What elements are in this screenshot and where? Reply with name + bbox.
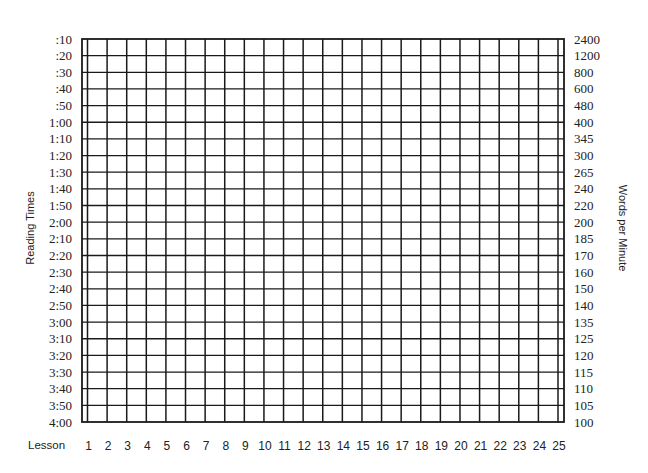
reading-time-tick: 3:00 [49, 315, 72, 330]
words-per-minute-tick: 100 [574, 415, 594, 430]
chart-grid: :10:20:30:40:501:001:101:201:301:401:502… [0, 0, 648, 473]
right-axis-ticks: 2400120080060048040034530026524022020018… [574, 32, 600, 430]
lesson-tick: 12 [297, 439, 311, 453]
reading-time-tick: 1:20 [49, 148, 72, 163]
reading-time-tick: 2:20 [49, 248, 72, 263]
words-per-minute-tick: 300 [574, 148, 594, 163]
words-per-minute-tick: 800 [574, 65, 594, 80]
reading-time-tick: :10 [55, 32, 72, 47]
words-per-minute-tick: 400 [574, 115, 594, 130]
words-per-minute-tick: 140 [574, 298, 594, 313]
lesson-tick: 23 [513, 439, 527, 453]
reading-time-tick: 2:10 [49, 231, 72, 246]
words-per-minute-tick: 240 [574, 181, 594, 196]
lesson-tick: 8 [222, 439, 229, 453]
lesson-tick: 4 [144, 439, 151, 453]
reading-time-tick: 2:30 [49, 265, 72, 280]
lesson-tick: 1 [85, 439, 92, 453]
reading-time-tick: 1:50 [49, 198, 72, 213]
lesson-tick: 10 [258, 439, 272, 453]
lesson-tick: 17 [395, 439, 409, 453]
words-per-minute-tick: 160 [574, 265, 594, 280]
words-per-minute-tick: 480 [574, 98, 594, 113]
reading-time-tick: 4:00 [49, 415, 72, 430]
reading-time-tick: 3:10 [49, 331, 72, 346]
words-per-minute-tick: 115 [574, 365, 593, 380]
lesson-axis-ticks: 1234567891011121314151617181920212223242… [85, 439, 566, 453]
reading-time-tick: 3:20 [49, 348, 72, 363]
lesson-tick: 21 [474, 439, 488, 453]
reading-time-tick: 3:50 [49, 398, 72, 413]
lesson-tick: 11 [278, 439, 291, 453]
words-per-minute-tick: 265 [574, 165, 594, 180]
lesson-tick: 7 [203, 439, 210, 453]
lesson-tick: 13 [317, 439, 331, 453]
reading-time-tick: 3:30 [49, 365, 72, 380]
right-axis-title: Words per Minute [617, 185, 629, 272]
reading-time-tick: 2:50 [49, 298, 72, 313]
words-per-minute-tick: 170 [574, 248, 594, 263]
reading-time-tick: 3:40 [49, 381, 72, 396]
reading-time-tick: 2:00 [49, 215, 72, 230]
words-per-minute-tick: 105 [574, 398, 594, 413]
reading-time-tick: 2:40 [49, 281, 72, 296]
words-per-minute-tick: 120 [574, 348, 594, 363]
words-per-minute-tick: 220 [574, 198, 594, 213]
reading-time-tick: 1:30 [49, 165, 72, 180]
lesson-tick: 5 [164, 439, 171, 453]
words-per-minute-tick: 110 [574, 381, 593, 396]
lesson-tick: 22 [494, 439, 508, 453]
reading-time-tick: 1:40 [49, 181, 72, 196]
reading-time-tick: :30 [55, 65, 72, 80]
words-per-minute-tick: 135 [574, 315, 594, 330]
lesson-tick: 24 [533, 439, 547, 453]
grid-lines [82, 39, 564, 422]
lesson-tick: 25 [552, 439, 566, 453]
words-per-minute-tick: 185 [574, 231, 594, 246]
lesson-tick: 3 [124, 439, 131, 453]
reading-time-tick: :40 [55, 81, 72, 96]
reading-time-tick: :50 [55, 98, 72, 113]
words-per-minute-tick: 150 [574, 281, 594, 296]
lesson-tick: 15 [356, 439, 370, 453]
reading-time-tick: :20 [55, 48, 72, 63]
words-per-minute-tick: 125 [574, 331, 594, 346]
words-per-minute-tick: 345 [574, 131, 594, 146]
reading-time-tick: 1:10 [49, 131, 72, 146]
lesson-tick: 18 [415, 439, 429, 453]
lesson-tick: 16 [376, 439, 390, 453]
lesson-tick: 20 [454, 439, 468, 453]
words-per-minute-tick: 1200 [574, 48, 600, 63]
lesson-tick: 14 [337, 439, 351, 453]
lesson-tick: 9 [242, 439, 249, 453]
lesson-axis-label: Lesson [28, 439, 65, 451]
words-per-minute-tick: 600 [574, 81, 594, 96]
reading-time-tick: 1:00 [49, 115, 72, 130]
left-axis-ticks: :10:20:30:40:501:001:101:201:301:401:502… [49, 32, 72, 430]
lesson-tick: 19 [435, 439, 449, 453]
words-per-minute-tick: 200 [574, 215, 594, 230]
words-per-minute-tick: 2400 [574, 32, 600, 47]
lesson-tick: 2 [105, 439, 112, 453]
lesson-tick: 6 [183, 439, 190, 453]
left-axis-title: Reading Times [24, 191, 36, 264]
